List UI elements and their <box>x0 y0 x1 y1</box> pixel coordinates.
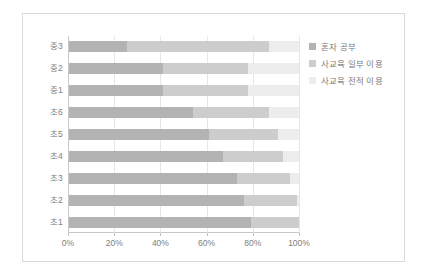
legend-item[interactable]: 혼자 공부 <box>309 40 383 52</box>
bar-row[interactable]: 중3 <box>69 41 299 52</box>
y-axis-category-label: 초4 <box>50 151 63 162</box>
x-axis-tick-label: 100% <box>288 238 310 248</box>
bar-row[interactable]: 초3 <box>69 173 299 184</box>
bar-segment[interactable] <box>244 195 297 206</box>
legend-item[interactable]: 사교육 전적 이용 <box>309 74 383 86</box>
stacked-bar <box>69 85 299 96</box>
x-axis-tick-mark <box>160 233 161 236</box>
y-axis-category-label: 초5 <box>50 129 63 140</box>
legend-label: 혼자 공부 <box>321 40 356 52</box>
bar-segment[interactable] <box>69 85 163 96</box>
x-axis-tick-label: 20% <box>106 238 123 248</box>
x-axis-line <box>68 232 299 233</box>
bar-segment[interactable] <box>283 151 299 162</box>
gridline <box>299 36 300 233</box>
stacked-bar <box>69 129 299 140</box>
x-axis-tick-mark <box>299 233 300 236</box>
x-axis-tick-mark <box>253 233 254 236</box>
stacked-bar <box>69 107 299 118</box>
stacked-bar <box>69 63 299 74</box>
bar-row[interactable]: 초1 <box>69 217 299 228</box>
stacked-bar <box>69 151 299 162</box>
bar-segment[interactable] <box>69 63 163 74</box>
legend-label: 사교육 전적 이용 <box>321 74 383 86</box>
chart-legend: 혼자 공부사교육 일부 이용사교육 전적 이용 <box>309 40 383 86</box>
y-axis-category-label: 초1 <box>50 217 63 228</box>
bar-segment[interactable] <box>163 85 248 96</box>
bar-segment[interactable] <box>69 129 209 140</box>
bar-segment[interactable] <box>251 217 299 228</box>
bar-row[interactable]: 중2 <box>69 63 299 74</box>
y-axis-category-label: 중1 <box>50 85 63 96</box>
bar-segment[interactable] <box>269 41 299 52</box>
bar-segment[interactable] <box>290 173 299 184</box>
bar-segment[interactable] <box>278 129 299 140</box>
bar-segment[interactable] <box>269 107 299 118</box>
y-axis-category-label: 초2 <box>50 195 63 206</box>
legend-color-swatch <box>309 43 316 50</box>
bar-segment[interactable] <box>297 195 299 206</box>
x-axis-tick-mark <box>68 233 69 236</box>
bar-row[interactable]: 초4 <box>69 151 299 162</box>
x-axis-tick-label: 0% <box>62 238 74 248</box>
y-axis-category-label: 중3 <box>50 41 63 52</box>
bar-segment[interactable] <box>69 195 244 206</box>
bar-segment[interactable] <box>248 63 299 74</box>
bar-segment[interactable] <box>193 107 269 118</box>
legend-color-swatch <box>309 77 316 84</box>
bar-segment[interactable] <box>163 63 248 74</box>
x-axis-tick-label: 60% <box>198 238 215 248</box>
legend-item[interactable]: 사교육 일부 이용 <box>309 57 383 69</box>
stacked-bar <box>69 41 299 52</box>
bar-row[interactable]: 중1 <box>69 85 299 96</box>
legend-label: 사교육 일부 이용 <box>321 57 383 69</box>
y-axis-category-label: 초3 <box>50 173 63 184</box>
stacked-bar <box>69 173 299 184</box>
bar-segment[interactable] <box>223 151 283 162</box>
bar-segment[interactable] <box>69 151 223 162</box>
bar-row[interactable]: 초5 <box>69 129 299 140</box>
x-axis-tick-label: 80% <box>244 238 261 248</box>
bar-segment[interactable] <box>69 173 237 184</box>
bar-segment[interactable] <box>127 41 270 52</box>
x-axis-tick-mark <box>207 233 208 236</box>
bar-segment[interactable] <box>69 217 251 228</box>
bar-segment[interactable] <box>248 85 299 96</box>
x-axis-tick-mark <box>114 233 115 236</box>
bar-segment[interactable] <box>69 41 127 52</box>
legend-color-swatch <box>309 60 316 67</box>
bar-segment[interactable] <box>69 107 193 118</box>
chart-frame: 중3중2중1초6초5초4초3초2초1 0%20%40%60%80%100% 혼자… <box>22 13 405 262</box>
y-axis-category-label: 중2 <box>50 63 63 74</box>
stacked-bar <box>69 195 299 206</box>
plot-area: 중3중2중1초6초5초4초3초2초1 0%20%40%60%80%100% <box>68 36 299 233</box>
bar-segment[interactable] <box>237 173 290 184</box>
stacked-bar <box>69 217 299 228</box>
x-axis-tick-label: 40% <box>152 238 169 248</box>
y-axis-category-label: 초6 <box>50 107 63 118</box>
bar-row[interactable]: 초6 <box>69 107 299 118</box>
bar-row[interactable]: 초2 <box>69 195 299 206</box>
bar-segment[interactable] <box>209 129 278 140</box>
